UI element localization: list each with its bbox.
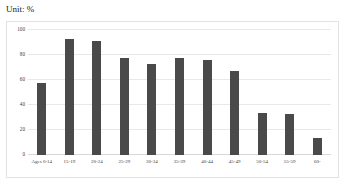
- x-axis-tick-label: 45-49: [229, 159, 241, 165]
- bar: [92, 41, 101, 155]
- bar: [65, 39, 74, 155]
- bar: [258, 113, 267, 156]
- bar-slot: 15-19: [56, 30, 84, 155]
- bar-slot: 30-34: [138, 30, 166, 155]
- chart-page: Unit: % 020406080100 Ages 0-1415-1920-24…: [0, 0, 345, 186]
- bar: [230, 71, 239, 155]
- y-axis-tick-label: 20: [20, 126, 25, 132]
- bar-slot: 55-59: [276, 30, 304, 155]
- unit-label: Unit: %: [6, 3, 34, 15]
- x-axis-tick-label: 35-39: [174, 159, 186, 165]
- bar: [313, 138, 322, 156]
- y-axis-tick-label: 80: [20, 51, 25, 57]
- bar: [37, 83, 46, 156]
- y-axis-tick-label: 100: [17, 26, 25, 32]
- bar: [203, 60, 212, 155]
- x-axis-tick-label: 15-19: [63, 159, 75, 165]
- y-axis-tick-label: 60: [20, 76, 25, 82]
- bar-slot: 25-29: [111, 30, 139, 155]
- bar: [147, 64, 156, 155]
- bar-slot: 35-39: [166, 30, 194, 155]
- bar-series: Ages 0-1415-1920-2425-2930-3435-3940-444…: [28, 30, 331, 155]
- x-axis-tick-label: Ages 0-14: [31, 159, 52, 165]
- bar: [285, 114, 294, 155]
- x-axis-tick-label: 55-59: [284, 159, 296, 165]
- y-axis-tick-label: 0: [22, 151, 25, 157]
- bar-slot: 40-44: [193, 30, 221, 155]
- bar-slot: 20-24: [83, 30, 111, 155]
- bar-slot: 45-49: [221, 30, 249, 155]
- x-axis-tick-label: 30-34: [146, 159, 158, 165]
- bar-slot: 60-: [303, 30, 331, 155]
- bar-slot: Ages 0-14: [28, 30, 56, 155]
- bar: [120, 58, 129, 156]
- chart-frame: 020406080100 Ages 0-1415-1920-2425-2930-…: [6, 21, 339, 178]
- x-axis-tick-label: 60-: [314, 159, 321, 165]
- x-axis-tick-label: 25-29: [119, 159, 131, 165]
- bar: [175, 58, 184, 156]
- x-axis-tick-label: 20-24: [91, 159, 103, 165]
- x-axis-tick-label: 40-44: [201, 159, 213, 165]
- y-axis-tick-label: 40: [20, 101, 25, 107]
- plot-area: 020406080100 Ages 0-1415-1920-2425-2930-…: [28, 30, 331, 155]
- x-axis-tick-label: 50-54: [256, 159, 268, 165]
- bar-slot: 50-54: [248, 30, 276, 155]
